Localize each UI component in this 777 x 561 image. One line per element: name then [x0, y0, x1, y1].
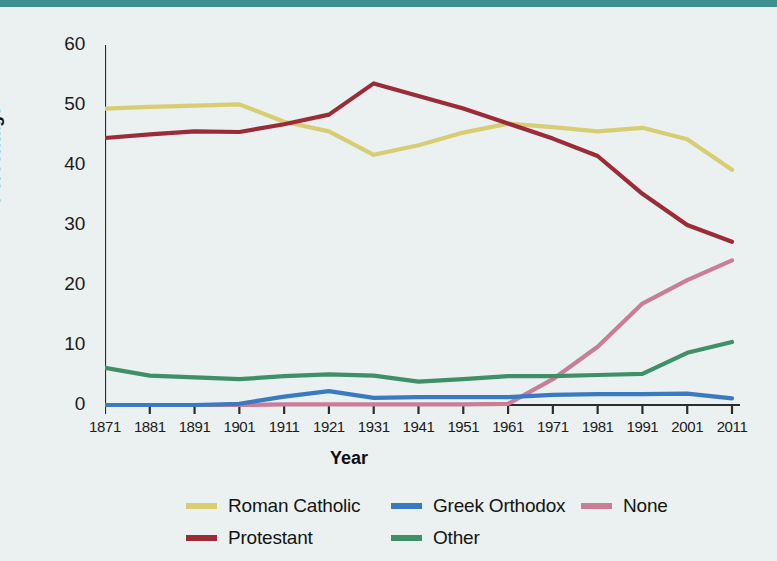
y-tick-label-40: 40 — [41, 153, 85, 175]
plot-area: 0102030405060 18711881189119011911192119… — [105, 45, 740, 405]
y-tick-label-50: 50 — [41, 93, 85, 115]
legend-swatch-icon — [391, 535, 422, 541]
legend-label: None — [623, 496, 668, 516]
x-axis-title: Year — [330, 448, 368, 469]
legend-swatch-icon — [186, 503, 217, 509]
legend-label: Other — [433, 528, 480, 548]
series-line-roman-catholic — [105, 104, 732, 169]
axes-group — [105, 45, 740, 414]
legend-label: Roman Catholic — [228, 496, 360, 516]
top-rule-decoration — [0, 0, 777, 7]
y-tick-label-20: 20 — [41, 273, 85, 295]
y-tick-label-10: 10 — [41, 333, 85, 355]
y-tick-label-60: 60 — [41, 33, 85, 55]
series-line-other — [105, 342, 732, 382]
y-tick-label-0: 0 — [41, 393, 85, 415]
legend-label: Protestant — [228, 528, 313, 548]
legend-item-roman-catholic[interactable]: Roman Catholic — [186, 496, 360, 516]
legend-swatch-icon — [581, 503, 612, 509]
legend-item-greek-orthodox[interactable]: Greek Orthodox — [391, 496, 565, 516]
y-tick-label-30: 30 — [41, 213, 85, 235]
x-tick-label-2011: 2011 — [705, 418, 759, 435]
series-group — [105, 83, 732, 405]
chart-figure: 0102030405060 18711881189119011911192119… — [0, 0, 777, 561]
legend-item-none[interactable]: None — [581, 496, 668, 516]
chart-canvas: 0102030405060 18711881189119011911192119… — [0, 7, 777, 561]
legend-item-other[interactable]: Other — [391, 528, 480, 548]
y-axis-title: Percentage — [0, 106, 5, 203]
line-chart-svg — [105, 45, 740, 450]
chart-legend: Roman CatholicGreek OrthodoxNoneProtesta… — [186, 496, 726, 504]
legend-label: Greek Orthodox — [433, 496, 565, 516]
legend-swatch-icon — [186, 535, 217, 541]
legend-item-protestant[interactable]: Protestant — [186, 528, 313, 548]
legend-swatch-icon — [391, 503, 422, 509]
